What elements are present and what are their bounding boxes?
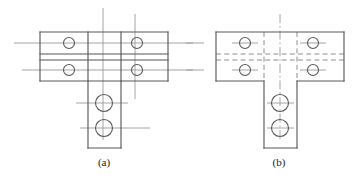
figure-board: (a) — [0, 0, 362, 177]
panel-b-caption: (b) — [273, 156, 286, 169]
drawing-background — [0, 0, 362, 177]
panel-a-caption: (a) — [98, 156, 111, 169]
technical-drawing-canvas: (a) — [0, 0, 362, 177]
